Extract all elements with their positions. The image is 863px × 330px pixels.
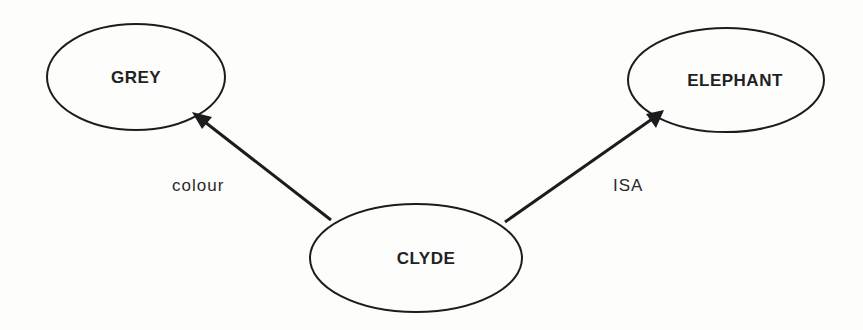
node-label-elephant: ELEPHANT [687, 71, 783, 90]
edge-clyde-elephant [505, 110, 664, 222]
node-elephant[interactable]: ELEPHANT [628, 28, 824, 132]
node-label-clyde: CLYDE [397, 249, 456, 268]
node-clyde[interactable]: CLYDE [310, 204, 522, 312]
node-label-grey: GREY [111, 68, 161, 87]
edge-label-isa: ISA [613, 176, 643, 195]
node-grey[interactable]: GREY [47, 24, 225, 130]
edge-line-isa [505, 117, 655, 222]
diagram-canvas: GREY ELEPHANT CLYDE colour ISA [0, 0, 863, 330]
semantic-network-diagram: GREY ELEPHANT CLYDE colour ISA [0, 0, 863, 330]
edge-label-colour: colour [172, 176, 224, 195]
edge-clyde-grey [192, 112, 331, 220]
edge-line-colour [201, 119, 331, 220]
